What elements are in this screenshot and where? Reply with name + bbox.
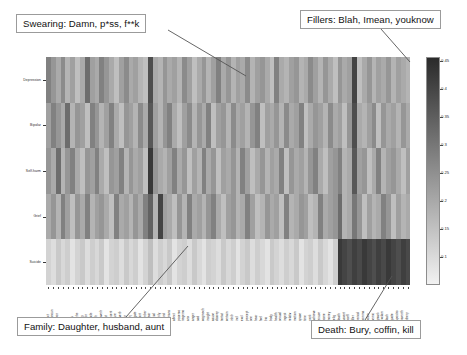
x-axis-tick-mark [160,287,161,289]
x-axis-tick-label: cogmech [201,308,205,321]
colorbar-tick-mark [440,201,443,202]
y-axis-tick-mark [43,217,46,218]
colorbar-tick-mark [440,61,443,62]
x-axis-tick-mark [92,287,93,289]
colorbar-tick-mark [440,229,443,230]
x-axis-tick-mark [272,287,273,289]
x-axis-tick-mark [383,287,384,289]
x-axis-tick-label: insight [206,312,210,321]
x-axis-tick-mark [243,287,244,289]
x-axis-tick-mark [73,287,74,289]
x-axis-tick-label: sad [196,316,200,321]
heatmap-cell [406,239,410,285]
x-axis-tick-mark [112,287,113,289]
x-axis-tick-mark [374,287,375,289]
figure-canvas: DepressionBipolarSelf-harmGriefSuicide f… [0,0,467,355]
colorbar-tick-mark [440,145,443,146]
callout-fillers: Fillers: Blah, Imean, youknow [300,10,441,29]
heatmap-cell [406,194,410,240]
x-axis-tick-label: incl [235,316,239,321]
heatmap-row [46,57,410,103]
y-axis-tick-mark [43,125,46,126]
x-axis-tick-label: certain [225,312,229,321]
x-axis-tick-mark [213,287,214,289]
x-axis-tick-mark [267,287,268,289]
x-axis-tick-mark [344,287,345,289]
x-axis-tick-mark [97,287,98,289]
x-axis-tick-mark [306,287,307,289]
x-axis-tick-mark [252,287,253,289]
heatmap-cell [406,103,410,149]
heatmap-row [46,103,410,149]
x-axis-tick-mark [131,287,132,289]
x-axis-tick-label: hear [254,315,258,321]
x-axis-tick-mark [388,287,389,289]
x-axis-tick-mark [145,287,146,289]
x-axis-tick-mark [291,287,292,289]
x-axis-tick-mark [233,287,234,289]
x-axis-tick-label: percept [245,311,249,321]
x-axis-tick-label: ingest [283,313,287,321]
x-axis-tick-mark [349,287,350,289]
x-axis-tick-mark [199,287,200,289]
x-axis-tick-label: anx [186,316,190,321]
x-axis-tick-mark [179,287,180,289]
x-axis-tick-mark [223,287,224,289]
x-axis-tick-label: anger [191,313,195,321]
heatmap-row [46,194,410,240]
x-axis-tick-mark [48,287,49,289]
x-axis-tick-label: excl [240,315,244,321]
heatmap-plot-area [46,57,410,285]
y-axis-tick-mark [43,262,46,263]
x-axis-tick-mark [315,287,316,289]
x-axis-tick-mark [126,287,127,289]
x-axis-tick-mark [87,287,88,289]
x-axis-tick-mark [277,287,278,289]
x-axis-tick-label: motion [293,312,297,321]
x-axis-tick-mark [209,287,210,289]
x-axis-tick-mark [53,287,54,289]
x-axis-tick-mark [228,287,229,289]
colorbar-tick-mark [440,173,443,174]
x-axis-tick-label: feel [259,316,263,321]
x-axis-tick-mark [359,287,360,289]
x-axis-tick-mark [136,287,137,289]
heatmap-row [46,148,410,194]
x-axis-tick-mark [107,287,108,289]
x-axis-tick-label: inhib [230,314,234,321]
x-axis-tick-label: relativ [288,313,292,321]
x-axis-tick-mark [189,287,190,289]
x-axis-tick-mark [364,287,365,289]
x-axis-tick-mark [354,287,355,289]
x-axis-tick-mark [335,287,336,289]
x-axis-tick-label: space [298,313,302,321]
heatmap-cell [406,148,410,194]
callout-swearing: Swearing: Damn, p*ss, f**k [16,14,146,33]
x-axis-tick-label: sexual [278,312,282,321]
colorbar-tick-mark [440,89,443,90]
x-axis-tick-mark [218,287,219,289]
x-axis-tick-mark [257,287,258,289]
y-axis-tick-label: Self-harm [26,169,41,173]
x-axis-tick-mark [204,287,205,289]
x-axis-tick-mark [116,287,117,289]
callout-family: Family: Daughter, husband, aunt [17,317,171,336]
y-axis-tick-label: Suicide [30,260,41,264]
intensity-colorbar [426,57,440,285]
x-axis-tick-mark [393,287,394,289]
x-axis-tick-label: bio [264,317,268,321]
x-axis-tick-mark [121,287,122,289]
y-axis-tick-label: Depression [23,78,41,82]
x-axis-tick-group: functpronounpproniweyoushehetheyipronart… [46,287,410,321]
x-axis-tick-mark [301,287,302,289]
x-axis-tick-mark [369,287,370,289]
x-axis-tick-label: body [269,314,273,321]
y-axis-tick-label: Grief [33,214,41,218]
x-axis-tick-mark [102,287,103,289]
x-axis-tick-label: tentat [220,313,224,321]
x-axis-tick-mark [330,287,331,289]
x-axis-tick-mark [175,287,176,289]
x-axis-tick-mark [68,287,69,289]
x-axis-tick-mark [286,287,287,289]
x-axis-tick-mark [311,287,312,289]
